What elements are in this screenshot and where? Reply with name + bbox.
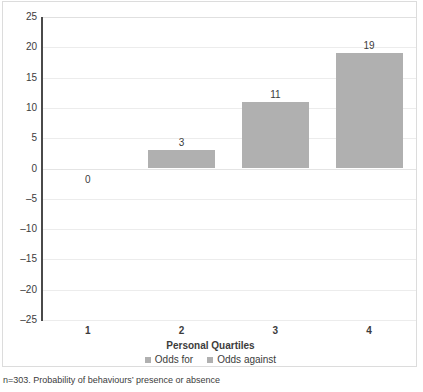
x-axis-tick-labels: 1234 [41,325,416,339]
chart-frame: 031119 2520151050–5–10–15–20–25 1234 Per… [2,1,417,367]
legend-item[interactable]: Odds for [145,354,193,366]
y-axis-tick-label: –10 [3,224,37,234]
y-axis-tick-label: 15 [3,73,37,83]
gridline [41,199,416,200]
gridline [41,320,416,321]
legend-swatch-icon [207,357,213,363]
x-axis-tick-label: 3 [229,325,323,337]
y-axis-tick-label: 10 [3,103,37,113]
y-axis-tick-label: –15 [3,254,37,264]
gridline [41,259,416,260]
legend-item-label: Odds against [217,354,276,366]
y-axis-tick-label: 5 [3,133,37,143]
gridline [41,290,416,291]
y-axis-tick-labels: 2520151050–5–10–15–20–25 [3,17,37,320]
y-axis-tick-label: –25 [3,315,37,325]
bar-value-label: 0 [54,174,121,185]
bar [242,102,309,169]
x-axis-tick-label: 4 [322,325,416,337]
bar [148,150,215,168]
y-axis-tick-label: 0 [3,164,37,174]
bar [336,53,403,168]
chart-footnote: n=303. Probability of behaviours’ presen… [3,374,220,386]
x-axis-tick-label: 1 [41,325,135,337]
y-axis-line [41,17,43,321]
legend-item[interactable]: Odds against [207,354,276,366]
gridline [41,169,416,170]
legend-item-label: Odds for [155,354,193,366]
x-axis-tick-label: 2 [135,325,229,337]
figure-container: 031119 2520151050–5–10–15–20–25 1234 Per… [0,0,423,392]
x-axis-title: Personal Quartiles [3,340,418,352]
bar-value-label: 19 [336,40,403,51]
chart-legend: Odds forOdds against [3,354,418,366]
y-axis-tick-label: –20 [3,285,37,295]
bar-value-label: 11 [242,89,309,100]
bar-value-label: 3 [148,137,215,148]
y-axis-tick-label: –5 [3,194,37,204]
legend-swatch-icon [145,357,151,363]
y-axis-tick-label: 25 [3,12,37,22]
gridline [41,17,416,18]
plot-area: 031119 [41,17,416,320]
gridline [41,229,416,230]
y-axis-tick-label: 20 [3,42,37,52]
